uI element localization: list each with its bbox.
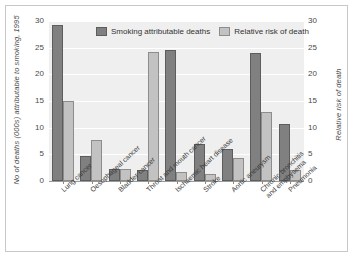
legend-label: Smoking attributable deaths (111, 27, 210, 36)
legend-entry[interactable]: Smoking attributable deaths (96, 27, 210, 36)
bar (261, 112, 272, 181)
y-tick-label-left: 5 (28, 150, 44, 158)
y-tick-label-right: 0 (308, 177, 324, 185)
y-axis-left-title: No of deaths (000s) attributable to smok… (12, 25, 21, 185)
legend-entry[interactable]: Relative risk of death (219, 27, 309, 36)
y-tick-label-right: 5 (308, 150, 324, 158)
bar-group (80, 21, 102, 181)
legend-label: Relative risk of death (234, 27, 309, 36)
bar (222, 149, 233, 181)
chart-figure: No of deaths (000s) attributable to smok… (0, 0, 354, 258)
bar (52, 25, 63, 181)
y-tick-label-left: 30 (28, 17, 44, 25)
y-tick-label-left: 10 (28, 124, 44, 132)
y-tick-label-right: 25 (308, 44, 324, 52)
y-tick-label-right: 10 (308, 124, 324, 132)
chart-legend: Smoking attributable deathsRelative risk… (96, 27, 309, 36)
y-axis-right-title: Relative risk of death (334, 25, 343, 185)
legend-swatch-icon (219, 27, 230, 36)
y-tick-label-left: 20 (28, 70, 44, 78)
y-tick-label-right: 30 (308, 17, 324, 25)
bar-group (52, 21, 74, 181)
x-axis-category-labels: Lung cancerOesophageal cancerBladder can… (49, 183, 304, 255)
bar (91, 140, 102, 181)
bar-group (222, 21, 244, 181)
legend-swatch-icon (96, 27, 107, 36)
bar-group (137, 21, 159, 181)
bar (63, 101, 74, 181)
y-tick-label-left: 25 (28, 44, 44, 52)
y-tick-label-left: 0 (28, 177, 44, 185)
y-tick-label-right: 15 (308, 97, 324, 105)
y-tick-label-left: 15 (28, 97, 44, 105)
y-tick-label-right: 20 (308, 70, 324, 78)
